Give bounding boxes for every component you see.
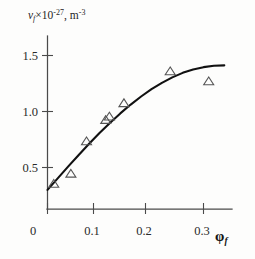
plot-canvas: 1.5 1.0 0.5 0 0.1 0.2 0.3 <box>0 0 255 259</box>
y-tick-label-1_0: 1.0 <box>22 105 38 119</box>
data-point-marker <box>204 77 214 85</box>
data-point-marker <box>66 169 76 177</box>
y-axis-label-units: , m <box>64 9 79 21</box>
x-tick-label-0_1: 0.1 <box>84 224 100 238</box>
y-tick-label-1_5: 1.5 <box>22 49 38 63</box>
fitted-curve <box>48 65 225 190</box>
x-axis-label: φf <box>215 228 228 246</box>
data-point-marker <box>165 67 175 75</box>
y-axis-label-exponent: -27 <box>53 8 64 17</box>
y-axis-label-times: ×10 <box>35 9 53 21</box>
x-axis-label-subscript: f <box>224 236 227 246</box>
x-tick-label-0_3: 0.3 <box>194 224 210 238</box>
y-axis-label: νf×10-27, m-3 <box>28 9 85 24</box>
figure-container: 1.5 1.0 0.5 0 0.1 0.2 0.3 νf×10-27, m-3 … <box>0 0 255 259</box>
x-axis-label-symbol: φ <box>215 228 224 244</box>
y-tick-label-0_5: 0.5 <box>22 161 38 175</box>
data-point-markers <box>49 67 214 187</box>
y-axis-label-units-exponent: -3 <box>79 8 86 17</box>
x-tick-label-0: 0 <box>30 224 36 238</box>
data-point-marker <box>119 99 129 107</box>
x-tick-label-0_2: 0.2 <box>136 224 152 238</box>
